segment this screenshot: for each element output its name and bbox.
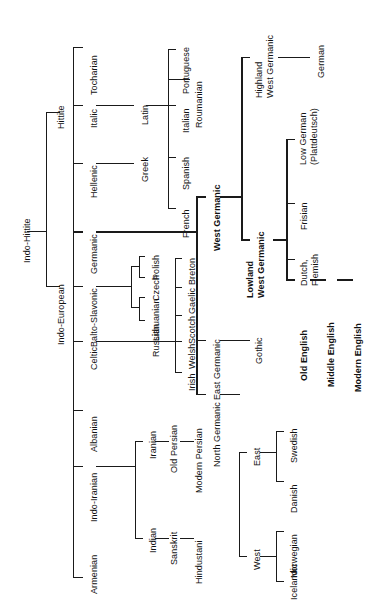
node-indian: Indian: [148, 528, 159, 553]
edge-north-east-trunk: [260, 452, 277, 453]
edge-latin-to-portuguese: [168, 49, 176, 50]
edge-latin-to-italian: [168, 105, 176, 106]
node-czech: Czech: [151, 275, 162, 301]
edge-ie-to-germanic: [73, 231, 83, 233]
node-armenian: Armenian: [89, 555, 100, 594]
node-dutch-flemish: Dutch, Flemish: [299, 254, 320, 286]
node-latin: Latin: [140, 105, 151, 125]
node-hindustani: Hindustani: [194, 540, 205, 584]
node-indo-iranian: Indo-Iranian: [89, 473, 100, 522]
node-tocharian: Tocharian: [89, 55, 100, 95]
edge-ie-to-hellenic: [73, 163, 83, 164]
node-middle-english: Middle English: [326, 322, 337, 387]
node-lowland-west-germanic: Lowland West Germanic: [245, 231, 266, 298]
edge-lowland-to-low-german: [286, 139, 295, 140]
edge-bs-east-pair-spine: [139, 297, 140, 321]
edge-celtic-trunk: [96, 341, 176, 342]
edge-root-vertical: [46, 112, 47, 287]
edge-bs-to-lithuanian: [139, 297, 145, 298]
edge-italic-to-latin: [96, 105, 134, 106]
edge-celtic-to-scotch: [175, 315, 182, 316]
node-north-germanic: North Germanic: [212, 402, 223, 467]
edge-germanic-to-west: [196, 196, 206, 198]
node-welsh: Welsh: [187, 344, 198, 369]
edge-west-germanic-spine: [241, 57, 243, 240]
node-indo-european: Indo-European: [56, 284, 67, 345]
edge-ie-to-celtic: [73, 341, 83, 342]
node-irish: Irish: [187, 373, 198, 391]
node-dutch-flemish-label: Dutch, Flemish: [299, 254, 320, 286]
edge-sanskrit-to-hindustani: [180, 538, 194, 539]
edge-west-to-icelandic: [276, 581, 284, 582]
edge-latin-to-french: [168, 208, 176, 209]
edge-indian-to-sanskrit: [155, 538, 169, 539]
node-celtic: Celtic: [89, 347, 100, 370]
edge-bs-west-pair-spine: [139, 256, 140, 278]
edge-north-germanic-trunk: [220, 394, 240, 395]
edge-ie-to-balto-slavonic: [73, 286, 83, 287]
edge-indo-iranian-spine: [135, 441, 136, 539]
edge-bs-to-polish: [139, 256, 145, 257]
edge-middle-to-modern-english: [337, 279, 353, 281]
edge-root-stub: [27, 231, 46, 232]
edge-wg-to-highland: [241, 57, 250, 58]
node-north-east: East: [252, 448, 263, 466]
node-lowland-west-germanic-label: Lowland West Germanic: [245, 231, 266, 298]
node-greek: Greek: [140, 157, 151, 182]
edge-germanic-to-east: [196, 340, 206, 341]
language-family-tree-diagram: Indo-Hittite Hittite Indo-European Tocha…: [0, 0, 369, 604]
node-frisian: Frisian: [299, 202, 310, 230]
edge-west-to-norwegian: [276, 531, 284, 532]
node-balto-slavonic: Balto-Slavonic: [89, 288, 100, 347]
node-old-english: Old English: [299, 330, 310, 381]
edge-north-east-spine: [276, 431, 277, 481]
edge-germanic-trunk: [96, 231, 197, 233]
node-highland-west-germanic-label: Highland West Germanic: [254, 35, 275, 98]
edge-east-to-danish: [276, 481, 284, 482]
edge-ie-spine: [73, 47, 74, 578]
edge-bs-to-west-group: [131, 266, 139, 267]
edge-old-to-middle-english: [310, 279, 326, 281]
edge-latin-to-spanish: [168, 157, 176, 158]
node-gothic: Gothic: [254, 337, 265, 364]
node-portuguese: Portuguese: [181, 47, 192, 94]
edge-lowland-to-frisian: [286, 203, 295, 204]
edge-ie-to-indo-iranian: [73, 466, 83, 467]
edge-old-to-modern-persian: [180, 441, 194, 442]
edge-balto-slavonic-trunk: [96, 286, 132, 287]
edge-north-west-spine: [276, 531, 277, 581]
node-swedish: Swedish: [289, 428, 300, 463]
node-low-german: Low German (Plattdeutsch): [298, 108, 319, 165]
node-spanish: Spanish: [181, 157, 192, 190]
edge-ie-to-italic: [73, 105, 83, 106]
edge-ie-to-albanian: [73, 410, 83, 411]
edge-balto-slavonic-spine: [131, 266, 132, 308]
node-germanic: Germanic: [89, 234, 100, 274]
node-north-west: West: [252, 549, 263, 570]
edge-highland-to-german: [278, 57, 310, 58]
edge-north-germanic-spine: [239, 452, 240, 557]
node-danish: Danish: [289, 484, 300, 513]
node-breton: Breton: [187, 258, 198, 285]
edge-ii-to-indian: [135, 538, 143, 539]
edge-romance-spine: [168, 49, 169, 209]
edge-lowland-to-dutch: [286, 259, 295, 260]
edge-lowland-trunk: [273, 239, 287, 241]
node-low-german-label: Low German (Plattdeutsch): [298, 108, 319, 165]
edge-lowland-to-old-english: [286, 279, 295, 281]
edge-ng-to-east: [239, 452, 247, 453]
node-roumanian: Roumanian: [194, 81, 205, 128]
node-gaelic: Gaelic: [187, 288, 198, 314]
edge-indo-iranian-trunk: [96, 466, 136, 467]
edge-celtic-to-irish: [175, 372, 182, 373]
node-italic: Italic: [89, 109, 100, 128]
edge-bs-to-russian: [139, 320, 145, 321]
edge-celtic-to-welsh: [175, 341, 182, 342]
node-italian: Italian: [181, 108, 192, 133]
node-hittite: Hittite: [56, 105, 67, 129]
node-highland-west-germanic: Highland West Germanic: [254, 35, 275, 98]
edge-latin-to-romance: [146, 105, 168, 106]
node-modern-persian: Modern Persian: [194, 428, 205, 493]
edge-iranian-to-old-persian: [155, 441, 169, 442]
node-scotch: Scotch: [187, 316, 198, 344]
